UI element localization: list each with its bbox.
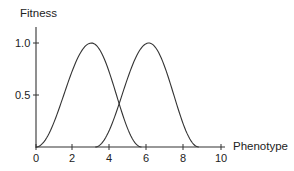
x-tick-label-4: 4 [106,152,112,164]
x-axis-label: Phenotype [233,140,288,152]
y-tick-label-0.5: 0.5 [15,89,30,101]
x-tick-label-8: 8 [180,152,186,164]
x-tick-label-0: 0 [33,152,39,164]
fitness-curve-1 [36,43,141,147]
y-tick-label-1.0: 1.0 [15,37,30,49]
y-axis-label: Fitness [20,7,57,19]
fitness-curve-2 [95,43,199,147]
x-tick-label-10: 10 [215,152,227,164]
x-tick-label-2: 2 [69,152,75,164]
fitness-chart: 1.0 0.5 0 2 4 6 8 10 Fitness Phenotype [0,0,294,171]
x-tick-label-6: 6 [143,152,149,164]
